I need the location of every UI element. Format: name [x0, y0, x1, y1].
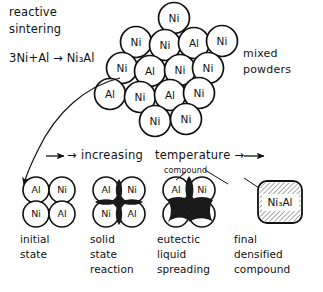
caption-eutectic-line-3: spreading	[157, 263, 210, 275]
compound-label: compound	[164, 166, 207, 175]
caption-eutectic-line-1: eutectic	[157, 233, 200, 245]
particle-label: Ni	[203, 62, 214, 74]
particle-label: Al	[127, 208, 136, 219]
particle-al: Al	[23, 177, 49, 203]
particle-ni: Ni	[119, 177, 145, 203]
particle-ni: Ni	[49, 177, 75, 203]
caption-eutectic-line-2: liquid	[157, 248, 186, 260]
particle-label: Ni	[181, 113, 192, 125]
particle-label: Al	[105, 88, 115, 100]
particle-label: Ni	[135, 91, 146, 103]
caption-solid-state-line-3: reaction	[90, 263, 134, 275]
reaction-equation: 3Ni+Al → Ni₃Al	[9, 52, 95, 66]
particle-label: Ni	[169, 12, 180, 24]
particle-al: Al	[119, 201, 145, 227]
particle-label: Ni	[31, 208, 41, 219]
particle-label: Ni	[131, 36, 142, 48]
stage-initial-state: AlNiNiAl	[23, 177, 75, 227]
particle-label: Ni	[197, 184, 207, 195]
caption-final-line-2: densified	[234, 248, 283, 260]
particle-label: Al	[31, 184, 40, 195]
caption-solid-state-line-2: state	[90, 248, 117, 260]
particle-label: Ni	[101, 208, 111, 219]
caption-initial-state-line-1: initial	[20, 233, 50, 245]
particle-label: Al	[101, 184, 110, 195]
particle-al: Al	[49, 201, 75, 227]
particle-label: Ni	[57, 184, 67, 195]
figure-title-line-1: reactive	[9, 6, 57, 20]
particle-ni: Ni	[23, 201, 49, 227]
particle-al: Al	[95, 79, 126, 110]
particle-label: Al	[145, 65, 155, 77]
particle-label: Al	[165, 89, 175, 101]
particle-ni: Ni	[140, 106, 171, 137]
caption-initial-state-line-2: state	[20, 248, 47, 260]
particle-label: Ni	[175, 64, 186, 76]
particle-label: Al	[57, 208, 66, 219]
particle-label: Ni	[217, 35, 228, 47]
temperature-axis-label: → increasing temperature →	[67, 149, 244, 163]
particle-label: Ni	[194, 87, 205, 99]
particle-label: Ni	[127, 184, 137, 195]
particle-label: Al	[171, 184, 180, 195]
particle-label: Ni	[117, 62, 128, 74]
caption-final-line-3: compound	[234, 263, 290, 275]
caption-final-line-1: final	[234, 233, 257, 245]
mixed-powder-cluster: NiNiNiAlNiNiAlNiNiAlNiAlNiNiNi	[95, 3, 238, 137]
particle-label: Al	[189, 37, 199, 49]
particle-ni: Ni	[93, 201, 119, 227]
caption-solid-state-line-1: solid	[90, 233, 115, 245]
particle-ni: Ni	[171, 104, 202, 135]
final-compound-label: Ni₃Al	[267, 196, 292, 208]
figure-title-line-2: sintering	[9, 23, 61, 37]
final-compound-box: Ni₃Al	[258, 181, 302, 223]
particle-al: Al	[93, 177, 119, 203]
particle-label: Ni	[150, 115, 161, 127]
particle-ni: Ni	[207, 26, 238, 57]
particle-label: Ni	[160, 39, 171, 51]
mixed-powders-line-2: powders	[243, 64, 291, 77]
mixed-powders-line-1: mixed	[243, 48, 278, 61]
